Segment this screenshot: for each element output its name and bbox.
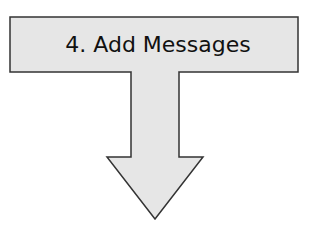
- step-diagram: 4. Add Messages: [0, 0, 320, 248]
- down-arrow-icon: [107, 71, 203, 219]
- step-title: 4. Add Messages: [10, 17, 298, 72]
